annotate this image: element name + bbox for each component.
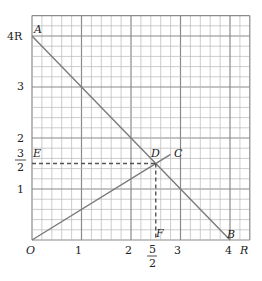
origin-label: O: [26, 244, 35, 257]
y-fraction-num: 3: [17, 147, 24, 160]
y-tick-1: 1: [17, 183, 24, 196]
y-fraction-den: 2: [17, 161, 24, 174]
geometry-diagram: 4R 3 2 1 3 2 O 1 2 3 4 R 5 2 A B C D E F: [0, 0, 262, 281]
y-tick-3: 3: [17, 80, 24, 93]
point-F-label: F: [155, 227, 164, 240]
x-unit: R: [239, 244, 248, 257]
y-tick-2: 2: [17, 132, 24, 145]
x-tick-3: 3: [174, 244, 181, 257]
point-D-label: D: [150, 147, 160, 160]
point-E-label: E: [32, 147, 41, 160]
x-fraction-num: 5: [149, 243, 156, 256]
x-tick-1: 1: [75, 244, 82, 257]
x-fraction-den: 2: [149, 257, 156, 270]
x-tick-4: 4: [225, 244, 232, 257]
point-B-label: B: [226, 228, 235, 241]
point-A-label: A: [33, 23, 42, 36]
point-C-label: C: [174, 147, 183, 160]
y-tick-4: 4R: [7, 30, 23, 43]
grid: [32, 16, 250, 240]
x-tick-2: 2: [125, 244, 132, 257]
